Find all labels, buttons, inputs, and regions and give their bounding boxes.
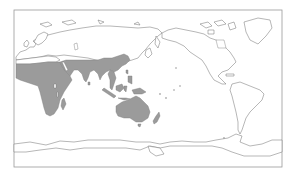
land-north-america [162, 18, 272, 84]
range-asia [60, 54, 146, 100]
land-eurasia [16, 20, 162, 62]
range-australia [116, 96, 160, 127]
land-antarctica [14, 134, 282, 156]
world-distribution-map [0, 0, 295, 179]
land-south-america [230, 82, 264, 134]
